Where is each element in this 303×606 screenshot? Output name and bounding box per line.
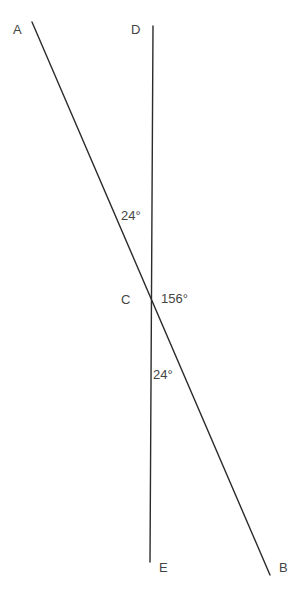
line-segment-de bbox=[150, 26, 153, 562]
point-label-e: E bbox=[159, 561, 168, 574]
angle-label-bce: 24° bbox=[153, 368, 173, 381]
point-label-a: A bbox=[13, 23, 22, 36]
geometry-diagram: A D C E B 24° 156° 24° bbox=[0, 0, 303, 606]
geometry-canvas bbox=[0, 0, 303, 606]
angle-label-dcb: 156° bbox=[161, 292, 188, 305]
point-label-b: B bbox=[279, 561, 288, 574]
point-label-c: C bbox=[121, 293, 130, 306]
angle-label-acd: 24° bbox=[121, 209, 141, 222]
point-label-d: D bbox=[131, 23, 140, 36]
